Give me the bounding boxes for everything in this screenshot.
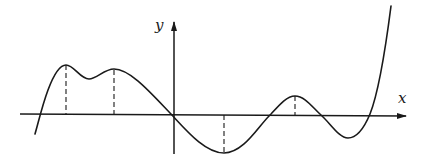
critical-point-markers xyxy=(66,65,295,153)
y-axis-label: y xyxy=(155,18,163,33)
x-axis xyxy=(20,114,406,116)
x-axis-label: x xyxy=(398,91,406,106)
function-graph-figure: y x xyxy=(0,0,424,164)
graph-canvas xyxy=(0,0,424,164)
function-curve xyxy=(35,6,391,153)
